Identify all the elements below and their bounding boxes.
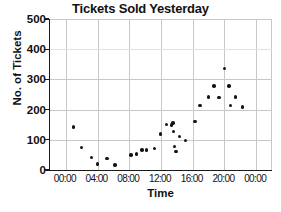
- gridline-vertical: [161, 19, 162, 170]
- y-axis-tick-label: 100: [6, 134, 46, 146]
- gridline-horizontal: [50, 110, 272, 111]
- plot-area: [49, 19, 272, 171]
- data-point: [173, 145, 176, 148]
- data-point: [96, 162, 99, 165]
- gridline-horizontal: [50, 79, 272, 80]
- data-point: [234, 95, 237, 98]
- chart-page: Tickets Sold Yesterday 0100200300400500 …: [0, 0, 281, 212]
- gridline-vertical: [98, 19, 99, 170]
- data-point: [227, 84, 230, 87]
- data-point: [72, 125, 75, 128]
- data-point: [113, 163, 116, 166]
- data-point: [145, 148, 148, 151]
- data-point: [159, 132, 162, 135]
- data-point: [129, 153, 132, 156]
- data-point: [135, 152, 138, 155]
- gridline-horizontal: [50, 49, 272, 50]
- y-axis-tick-labels: 0100200300400500: [1, 19, 46, 171]
- data-point: [172, 130, 175, 133]
- gridline-horizontal: [50, 19, 272, 20]
- data-point: [171, 121, 174, 124]
- data-point: [90, 156, 93, 159]
- gridline-vertical: [193, 19, 194, 170]
- data-point: [165, 123, 168, 126]
- gridline-vertical: [271, 19, 272, 170]
- data-point: [178, 135, 181, 138]
- data-point: [153, 147, 156, 150]
- data-point: [229, 104, 232, 107]
- x-axis-tick-label: 00:00: [233, 173, 277, 184]
- data-point: [241, 105, 244, 108]
- x-axis-title: Time: [49, 187, 272, 199]
- y-axis-tick-label: 0: [6, 164, 46, 176]
- data-point: [212, 84, 215, 87]
- y-axis-title: No. of Tickets: [11, 20, 23, 116]
- data-point: [217, 96, 220, 99]
- data-point: [207, 95, 210, 98]
- x-axis-tick-labels: 00:0004:0008:0012:0016:0020:0000:00: [49, 173, 272, 187]
- gridline-vertical: [256, 19, 257, 170]
- data-point: [193, 120, 196, 123]
- gridline-horizontal: [50, 140, 272, 141]
- gridline-vertical: [129, 19, 130, 170]
- gridline-vertical: [224, 19, 225, 170]
- data-point: [140, 148, 143, 151]
- data-point: [198, 104, 201, 107]
- data-point: [223, 67, 226, 70]
- data-point: [184, 139, 187, 142]
- data-point: [174, 150, 177, 153]
- data-point: [105, 157, 108, 160]
- data-point: [80, 146, 83, 149]
- gridline-vertical: [66, 19, 67, 170]
